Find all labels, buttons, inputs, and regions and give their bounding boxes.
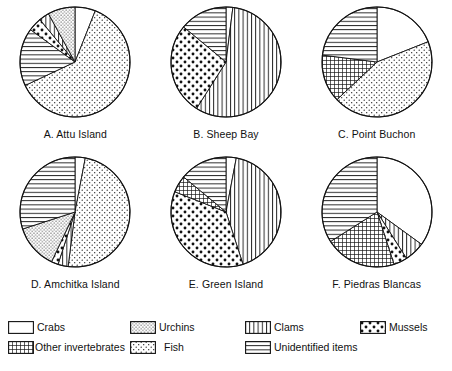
pie-chart-c — [318, 4, 436, 126]
legend-row-2: Other invertebrates — [8, 338, 448, 357]
pie-svg-d — [16, 154, 134, 276]
legend-swatch-svg — [8, 321, 34, 334]
legend-swatch-other-invertebrates — [8, 341, 34, 354]
legend-label-crabs: Crabs — [37, 321, 65, 334]
legend-swatch-unidentified — [245, 341, 271, 354]
pie-chart-f — [318, 154, 436, 276]
legend-label-clams: Clams — [274, 321, 304, 334]
legend-item-mussels: Mussels — [360, 318, 428, 336]
pie-svg-f — [318, 154, 436, 276]
pie-svg-e — [167, 154, 285, 276]
legend-swatch-svg — [130, 341, 156, 354]
legend-swatch-urchins — [130, 321, 156, 334]
legend-label-mussels: Mussels — [389, 321, 428, 334]
legend-label-fish: Fish — [164, 341, 184, 354]
pie-chart-cell-e: E. Green Island — [151, 154, 302, 304]
pie-svg-a — [16, 4, 134, 126]
pie-chart-b — [167, 4, 285, 126]
legend-label-other-invertebrates: Other invertebrates — [35, 341, 125, 354]
pie-caption-a: A. Attu Island — [44, 128, 107, 140]
legend-item-unidentified: Unidentified items — [245, 338, 357, 356]
legend-swatch-crabs — [8, 321, 34, 334]
pie-chart-cell-c: C. Point Buchon — [301, 4, 452, 154]
legend-item-other-invertebrates: Other invertebrates — [8, 338, 125, 356]
pie-svg-c — [318, 4, 436, 126]
legend-swatch-fish — [130, 341, 156, 354]
legend-swatch-clams — [245, 321, 271, 334]
legend-swatch-svg — [360, 321, 386, 334]
legend-item-fish: Fish — [130, 338, 184, 356]
pie-svg-b — [167, 4, 285, 126]
legend-item-clams: Clams — [245, 318, 304, 336]
pie-chart-a — [16, 4, 134, 126]
pie-chart-cell-a: A. Attu Island — [0, 4, 151, 154]
legend-item-crabs: Crabs — [8, 318, 65, 336]
pie-chart-e — [167, 154, 285, 276]
pie-slice — [322, 7, 377, 62]
legend-label-urchins: Urchins — [159, 321, 195, 334]
legend-swatch-svg — [245, 341, 271, 354]
pie-chart-cell-f: F. Piedras Blancas — [301, 154, 452, 304]
pie-chart-grid: A. Attu Island — [0, 4, 452, 304]
pie-chart-cell-d: D. Amchitka Island — [0, 154, 151, 304]
legend-item-urchins: Urchins — [130, 318, 195, 336]
legend: Crabs — [8, 316, 448, 364]
pie-caption-c: C. Point Buchon — [338, 128, 415, 140]
legend-label-unidentified: Unidentified items — [274, 341, 357, 354]
pie-chart-d — [16, 154, 134, 276]
pie-chart-cell-b: B. Sheep Bay — [151, 4, 302, 154]
pie-chart-figure: A. Attu Island — [0, 0, 452, 371]
legend-swatch-svg — [8, 341, 34, 354]
legend-row-1: Crabs — [8, 318, 448, 337]
pie-caption-d: D. Amchitka Island — [31, 278, 120, 290]
pie-caption-e: E. Green Island — [189, 278, 263, 290]
legend-swatch-svg — [245, 321, 271, 334]
legend-swatch-mussels — [360, 321, 386, 334]
pie-caption-b: B. Sheep Bay — [193, 128, 258, 140]
pie-caption-f: F. Piedras Blancas — [332, 278, 421, 290]
legend-swatch-svg — [130, 321, 156, 334]
